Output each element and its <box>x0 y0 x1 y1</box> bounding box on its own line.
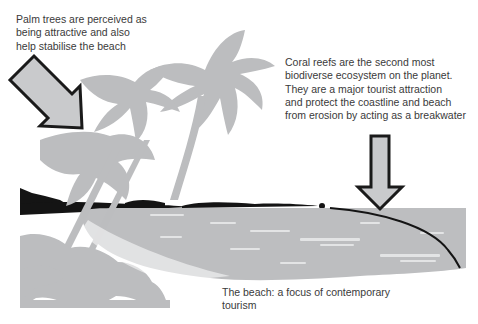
coral-reefs-annotation: Coral reefs are the second most biodiver… <box>285 56 466 122</box>
arrow-down-icon <box>358 136 402 209</box>
annotation-line: They are a major tourist attraction <box>285 83 466 96</box>
beach-annotation: The beach: a focus of contemporary touri… <box>222 286 390 313</box>
annotation-line: from erosion by acting as a breakwater <box>285 109 466 122</box>
annotation-line: and protect the coastline and beach <box>285 96 466 109</box>
annotation-line: The beach: a focus of contemporary <box>222 286 390 299</box>
annotation-line: Palm trees are perceived as <box>16 13 147 26</box>
annotation-line: being attractive and also <box>16 26 147 39</box>
annotation-line: help stabilise the beach <box>16 40 147 53</box>
annotation-line: Coral reefs are the second most <box>285 56 466 69</box>
beach-tourism-diagram: Palm trees are perceived as being attrac… <box>0 0 478 324</box>
annotation-line: tourism <box>222 299 390 312</box>
arrow-down-right-icon <box>10 56 82 128</box>
annotation-line: biodiverse ecosystem on the planet. <box>285 69 466 82</box>
palm-trees-annotation: Palm trees are perceived as being attrac… <box>16 13 147 53</box>
